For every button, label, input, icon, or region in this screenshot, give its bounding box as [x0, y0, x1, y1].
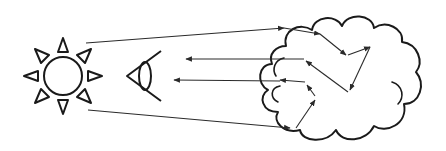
cloud-icon: [260, 16, 421, 139]
scattered-ray-lower: [174, 80, 280, 81]
scattering-diagram: [0, 0, 446, 151]
eye-icon: [127, 51, 161, 101]
incident-ray-bottom: [88, 80, 315, 128]
sun-icon: [24, 38, 102, 114]
incident-ray-top: [86, 28, 370, 92]
